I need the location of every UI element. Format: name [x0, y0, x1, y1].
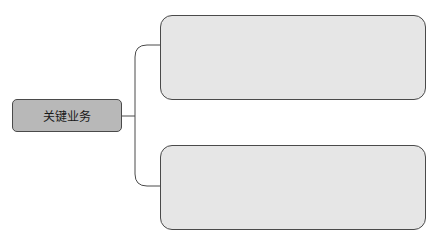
root-node-label: 关键业务 — [43, 107, 91, 124]
child-node-1 — [160, 15, 426, 100]
root-node-key-business: 关键业务 — [12, 99, 122, 132]
child-node-2 — [160, 145, 426, 230]
